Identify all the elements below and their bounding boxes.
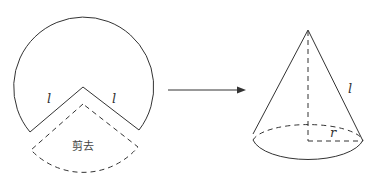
- base-ellipse-front: [253, 140, 363, 159]
- label-cut-away: 剪去: [72, 139, 94, 153]
- label-slant-left: l: [47, 91, 51, 106]
- sector-remaining: [14, 17, 154, 132]
- right-arrow-icon: [168, 87, 246, 94]
- cone-slant-left: [253, 30, 308, 134]
- diagram-svg: l l 剪去 l r: [0, 0, 372, 183]
- cone-unfolding-diagram: l l 剪去 l r: [0, 0, 372, 183]
- label-cone-slant: l: [348, 81, 352, 96]
- label-cone-radius: r: [330, 125, 337, 140]
- sector-cut-away: [31, 104, 138, 172]
- label-slant-right: l: [112, 91, 116, 106]
- cone: [253, 30, 363, 159]
